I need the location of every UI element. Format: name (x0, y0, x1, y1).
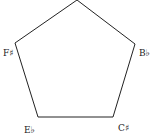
vertex-label-bottom-left: E♭ (24, 125, 35, 135)
vertex-label-right: B♭ (139, 48, 150, 58)
pentagon-diagram: F♯ B♭ E♭ C♯ (0, 0, 152, 137)
vertex-label-bottom-right: C♯ (118, 123, 129, 133)
pentagon-shape (15, 0, 135, 117)
vertex-label-left: F♯ (3, 48, 14, 58)
